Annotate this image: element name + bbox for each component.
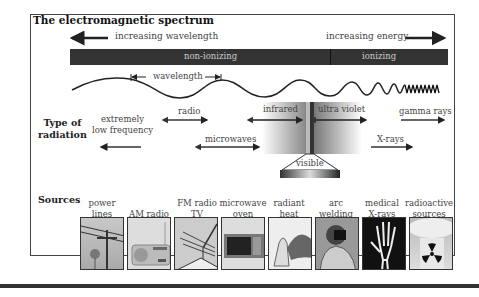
non-ionizing-label: non-ionizing (184, 51, 237, 61)
elf-label: extremely low frequency (92, 114, 153, 136)
xray-hand-image (362, 217, 406, 270)
source-l1: FM radio (172, 198, 222, 209)
ionization-band: non-ionizing ionizing (70, 49, 448, 65)
microwaves-label: microwaves (205, 134, 256, 144)
source-l1: arc (313, 198, 359, 209)
ionizing-label: ionizing (362, 51, 396, 61)
bottom-divider-bar (0, 284, 479, 288)
microwave-oven-image (221, 217, 265, 270)
infrared-label: infrared (263, 104, 298, 114)
xrays-label: X-rays (377, 134, 404, 144)
tv-antenna-image (174, 217, 218, 270)
gamma-rays-label: gamma rays (399, 106, 452, 116)
elf-label-line2: low frequency (92, 125, 153, 136)
type-of-radiation-label: Type of radiation (38, 117, 87, 141)
type-label-line2: radiation (38, 129, 87, 141)
radio-label: radio (178, 106, 200, 116)
source-l1: radioactive (404, 198, 454, 209)
visible-label: visible (296, 158, 324, 168)
increasing-wavelength-label: increasing wavelength (115, 31, 218, 41)
source-l1: medical (359, 198, 405, 209)
wavelength-label: wavelength (153, 71, 203, 81)
increasing-energy-label: increasing energy (326, 31, 408, 41)
radiant-heat-image (268, 217, 312, 270)
am-radio-image (127, 217, 171, 270)
source-l1: microwave (219, 198, 267, 209)
elf-label-line1: extremely (92, 114, 153, 125)
type-label-line1: Type of (38, 117, 87, 129)
source-l1: power (80, 198, 124, 209)
arc-welding-image (315, 217, 359, 270)
radioactive-image (409, 217, 453, 270)
source-l1 (127, 198, 171, 209)
band-divider (330, 49, 331, 65)
power-lines-image (80, 217, 124, 270)
ultraviolet-label: ultra violet (318, 104, 365, 114)
sources-label: Sources (38, 194, 80, 205)
source-l1: radiant (267, 198, 311, 209)
